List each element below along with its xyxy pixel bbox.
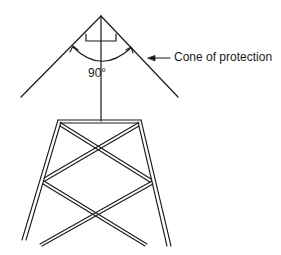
angle-arc	[73, 47, 131, 61]
upper-brace-down-b	[60, 126, 150, 182]
tower-structure	[22, 120, 171, 246]
pointer-arrowhead-icon	[148, 56, 155, 61]
tower-right-leg-outer	[141, 120, 171, 246]
upper-brace-down-a	[61, 123, 151, 179]
upper-brace-up-b	[45, 126, 139, 181]
lower-brace-up-a	[40, 181, 152, 244]
diagram-canvas	[0, 0, 281, 255]
angle-label: 90°	[88, 67, 106, 79]
cone-of-protection-label: Cone of protection	[174, 51, 272, 63]
cone-left-edge	[21, 16, 101, 97]
cone-of-protection-diagram: 90° Cone of protection	[0, 0, 281, 255]
tower-left-leg-outer	[22, 120, 58, 240]
cone-right-edge	[101, 16, 178, 97]
